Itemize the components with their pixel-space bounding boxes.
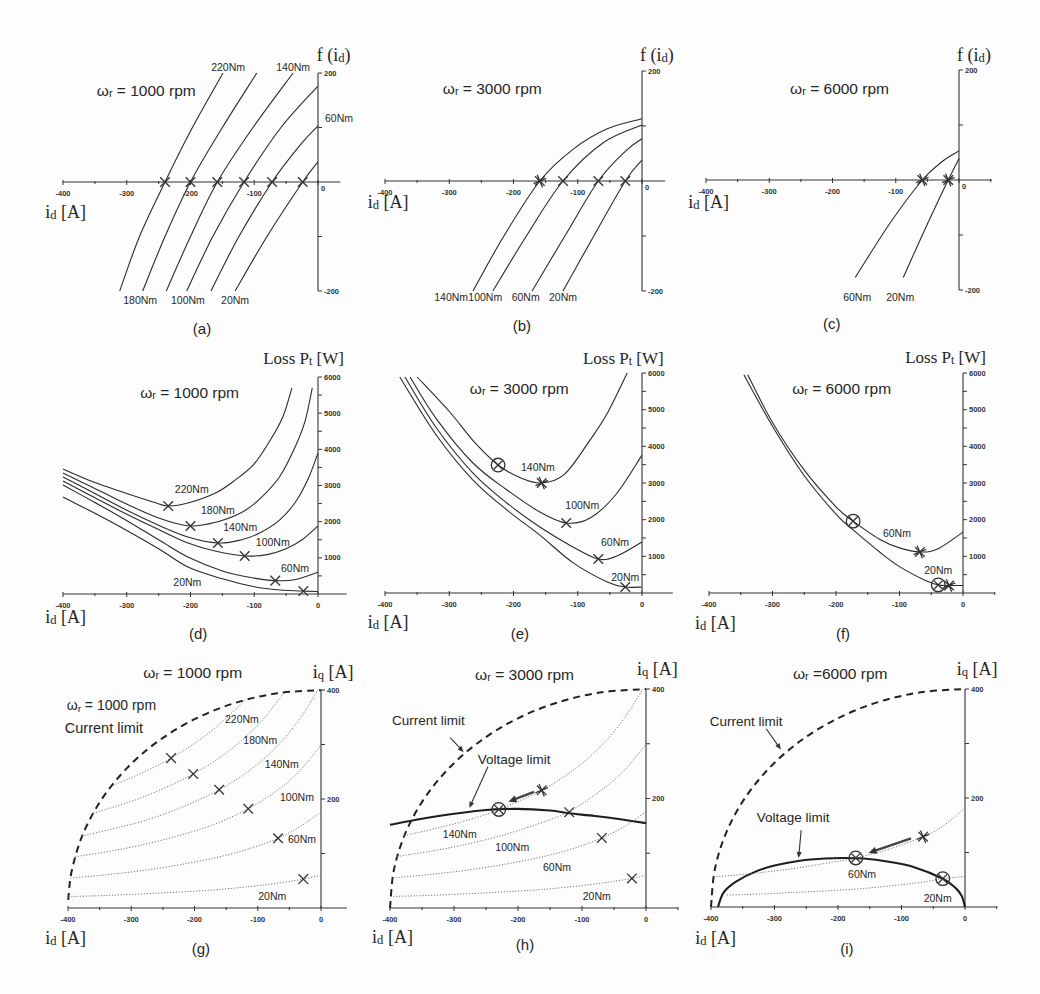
x-tick-label: 0 <box>319 915 323 924</box>
y-tick-label: 2000 <box>324 517 341 526</box>
y-tick-label: 5000 <box>648 405 665 414</box>
x-tick-label: 0 <box>316 601 320 610</box>
figure-page: -400-300-200-1000200-200ωr = 1000 rpmf (… <box>0 0 1040 994</box>
y-tick-label: 200 <box>327 795 340 804</box>
curve-label: 220Nm <box>175 483 209 495</box>
y-tick-label: 400 <box>652 685 665 694</box>
x-tick-label: -400 <box>377 600 392 609</box>
x-tick-label: 0 <box>962 182 966 191</box>
x-tick-label: 0 <box>640 600 644 609</box>
y-tick-label: 4000 <box>324 445 341 454</box>
panel-title: ωr = 1000 rpm <box>97 81 196 98</box>
annotation-label: Current limit <box>392 713 465 728</box>
curve-label: 220Nm <box>225 713 259 725</box>
y-tick-label: -200 <box>648 287 663 296</box>
x-tick-label: -200 <box>830 914 845 923</box>
curve-label: 60Nm <box>543 861 571 873</box>
x-tick-label: -100 <box>574 915 589 924</box>
x-tick-label: -300 <box>442 600 457 609</box>
curve-label: 60Nm <box>843 291 871 303</box>
curve-label: 20Nm <box>173 576 201 588</box>
curve-label: 100Nm <box>280 791 314 803</box>
x-tick-label: -200 <box>187 915 202 924</box>
x-tick-label: -400 <box>703 914 718 923</box>
x-tick-label: -400 <box>55 189 70 198</box>
curve-label: 100Nm <box>495 841 529 853</box>
curve-label: 20Nm <box>611 571 639 583</box>
y-tick-label: -200 <box>324 287 339 296</box>
y-tick-label: 1000 <box>648 552 665 561</box>
x-tick-label: -300 <box>765 600 780 609</box>
curve-label: 180Nm <box>243 734 277 746</box>
y-tick-label: 200 <box>652 794 665 803</box>
x-tick-label: -200 <box>825 187 840 196</box>
x-tick-label: -200 <box>183 601 198 610</box>
x-tick-label: 0 <box>321 184 325 193</box>
x-tick-label: -300 <box>446 915 461 924</box>
y-axis-label: Loss Pt [W] <box>263 349 344 368</box>
x-tick-label: 0 <box>645 183 649 192</box>
x-tick-label: -100 <box>570 600 585 609</box>
panel-title: ωr = 6000 rpm <box>790 80 889 97</box>
x-tick-label: 0 <box>963 914 967 923</box>
x-tick-label: -100 <box>247 189 262 198</box>
curve-label: 60Nm <box>281 562 309 574</box>
y-axis-label: f (id) <box>317 45 351 66</box>
x-tick-label: -100 <box>894 914 909 923</box>
x-tick-label: -300 <box>442 188 457 197</box>
curve-label: 60Nm <box>601 536 629 548</box>
panel-title: ωr = 1000 rpm <box>143 664 242 681</box>
curve-label: 140Nm <box>223 521 257 533</box>
x-tick-label: -400 <box>701 600 716 609</box>
curve-label: 20Nm <box>924 564 952 576</box>
curve-label: 20Nm <box>886 291 914 303</box>
x-tick-label: -200 <box>828 600 843 609</box>
curve-label: 100Nm <box>171 294 205 306</box>
panel-caption: (h) <box>516 936 534 953</box>
x-tick-label: 0 <box>961 600 965 609</box>
panel-caption: (i) <box>840 939 853 956</box>
curve-label: 60Nm <box>325 112 353 124</box>
x-tick-label: 0 <box>644 915 648 924</box>
curve-label: 140Nm <box>276 61 310 73</box>
x-tick-label: -100 <box>250 915 265 924</box>
curve-label: 140Nm <box>521 461 555 473</box>
y-axis-label: f (id) <box>640 45 674 66</box>
y-tick-label: 200 <box>971 794 984 803</box>
annotation-label: Voltage limit <box>478 752 551 767</box>
x-tick-label: -400 <box>60 915 75 924</box>
y-tick-label: 3000 <box>648 479 665 488</box>
annotation-label: Voltage limit <box>757 810 830 825</box>
curve-label: 140Nm <box>265 758 299 770</box>
y-tick-label: 6000 <box>324 373 341 382</box>
panel-caption: (b) <box>513 317 531 334</box>
panel-caption: (a) <box>193 320 211 337</box>
x-tick-label: -300 <box>119 601 134 610</box>
curve-label: 180Nm <box>201 504 235 516</box>
y-tick-label: 2000 <box>648 515 665 524</box>
panel-caption: (f) <box>836 625 850 642</box>
y-tick-label: 400 <box>327 686 340 695</box>
curve-label: 60Nm <box>848 868 876 880</box>
x-tick-label: -300 <box>762 187 777 196</box>
y-tick-label: 200 <box>648 67 661 76</box>
curve-label: 20Nm <box>258 890 286 902</box>
x-tick-label: -300 <box>119 189 134 198</box>
curve-label: 60Nm <box>883 527 911 539</box>
x-tick-label: -100 <box>570 188 585 197</box>
curve-label: 180Nm <box>123 294 157 306</box>
y-tick-label: 5000 <box>324 409 341 418</box>
curve-label: 20Nm <box>549 291 577 303</box>
curve-label: 20Nm <box>221 294 249 306</box>
figure-canvas: -400-300-200-1000200-200ωr = 1000 rpmf (… <box>0 0 1040 994</box>
panel-title: ωr = 6000 rpm <box>792 380 891 397</box>
y-tick-label: 1000 <box>969 552 986 561</box>
x-tick-label: -200 <box>506 188 521 197</box>
x-tick-label: -100 <box>888 187 903 196</box>
y-tick-label: 3000 <box>969 479 986 488</box>
x-tick-label: -300 <box>124 915 139 924</box>
x-tick-label: -200 <box>506 600 521 609</box>
curve-label: 20Nm <box>924 892 952 904</box>
y-tick-label: 1000 <box>324 553 341 562</box>
curve-label: 60Nm <box>288 833 316 845</box>
